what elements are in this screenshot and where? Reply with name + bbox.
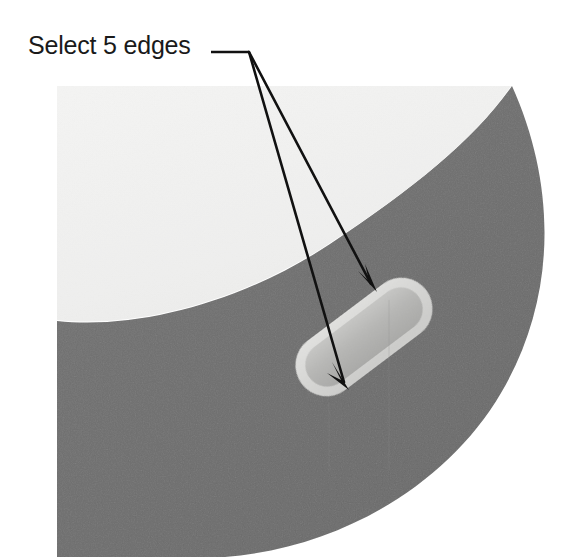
figure-canvas: Select 5 edges: [0, 0, 582, 558]
callout-label: Select 5 edges: [28, 33, 191, 58]
illustration-svg: [0, 0, 582, 558]
